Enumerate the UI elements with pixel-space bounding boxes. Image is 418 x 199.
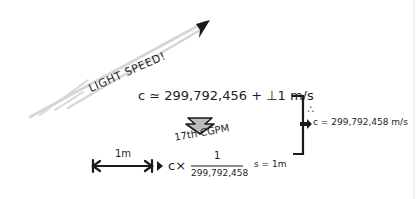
light-ray-arrowhead — [196, 20, 210, 38]
therefore-symbol: ∴ — [307, 103, 314, 116]
approx-speed-equation: c ≃ 299,792,456 + ⊥1 m/s — [138, 88, 314, 103]
meter-definition-suffix: s = 1m — [254, 159, 286, 169]
implies-arrow-small — [157, 161, 163, 171]
page-edge-divider — [413, 0, 415, 199]
meter-definition-prefix: c× — [168, 158, 186, 173]
fraction-denominator: 299,792,458 — [191, 168, 248, 178]
one-meter-label: 1m — [115, 148, 131, 159]
fraction-numerator: 1 — [214, 150, 220, 161]
exact-speed-equation: c = 299,792,458 m/s — [313, 117, 408, 127]
one-meter-arrow — [93, 160, 152, 172]
implies-arrow — [300, 119, 312, 129]
